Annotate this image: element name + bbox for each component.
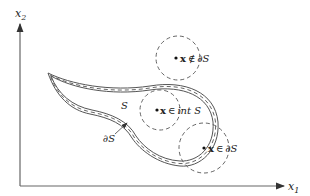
interior-point-dot <box>155 108 158 111</box>
set-label: S <box>121 100 128 111</box>
boundary-point-dot <box>202 146 205 149</box>
set-boundary-diagram: x2 x1 S ∂S x∉∂S x∈int S x∈∂S <box>0 0 310 196</box>
x-axis-label: x1 <box>288 180 299 195</box>
boundary-pointer-arrow <box>115 123 127 134</box>
exterior-point-dot <box>174 56 177 59</box>
exterior-point-label: x∉∂S <box>180 53 210 64</box>
boundary-point-label: x∈∂S <box>208 143 238 154</box>
interior-point-label: x∈int S <box>160 105 201 116</box>
set-inner-boundary <box>51 76 213 161</box>
y-axis-label: x2 <box>15 7 26 22</box>
set-outer-boundary <box>48 73 218 166</box>
boundary-label: ∂S <box>103 133 115 144</box>
